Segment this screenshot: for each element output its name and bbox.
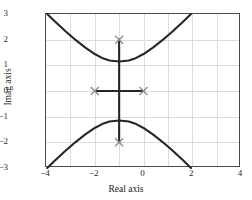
chart-canvas bbox=[46, 14, 241, 168]
y-axis-label: Imag axis bbox=[3, 52, 13, 122]
y-tick-label: −3 bbox=[0, 163, 8, 172]
x-axis-label: Real axis bbox=[0, 184, 252, 194]
x-tick-label: 4 bbox=[225, 169, 252, 178]
y-tick-label: 3 bbox=[0, 9, 8, 18]
x-tick-label: −4 bbox=[30, 169, 60, 178]
x-tick-label: 0 bbox=[128, 169, 158, 178]
locus-branches bbox=[47, 14, 191, 168]
x-tick-label: 2 bbox=[176, 169, 206, 178]
y-tick-label: 2 bbox=[0, 35, 8, 44]
plot-area bbox=[45, 13, 240, 167]
y-tick-label: −2 bbox=[0, 137, 8, 146]
root-locus-figure: 3210−1−2−3 −4−2024 Real axis Imag axis bbox=[0, 0, 252, 200]
x-tick-label: −2 bbox=[79, 169, 109, 178]
